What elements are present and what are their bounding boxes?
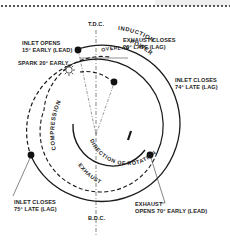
svg-text:COMPRESSION: COMPRESSION — [49, 99, 62, 151]
exhaust-close-arc — [80, 72, 114, 83]
exhaust-closes-dot — [111, 79, 118, 86]
tdc-label: T.D.C. — [88, 21, 104, 28]
power-arc — [68, 59, 163, 153]
inlet-opens-label: INLET OPENS15° EARLY (LEAD) — [22, 40, 72, 53]
svg-text:DIRECTION OF ROTATION: DIRECTION OF ROTATION — [89, 138, 157, 166]
inlet-closes-74-label: INLET CLOSES74° LATE (LAG) — [175, 77, 218, 90]
inlet-closes-75-label: INLET CLOSES75° LATE (LAG) — [14, 199, 57, 212]
valve-timing-diagram: INDUCTION POWER COMPRESSION EXHAUST DIRE… — [0, 0, 230, 243]
inlet-opens-dot — [75, 47, 82, 54]
inlet-closes-75-dot — [28, 152, 35, 159]
exhaust-opens-label: EXHAUSTOPENS 70° EARLY (LEAD) — [135, 201, 207, 214]
rotation-arrowhead — [128, 131, 131, 140]
exhaust-label: EXHAUST — [77, 162, 102, 185]
spark-label: SPARK 20° EARLY — [18, 60, 69, 67]
bdc-label: B.D.C. — [88, 215, 105, 222]
exhaust-arc — [40, 56, 157, 192]
rotation-label: DIRECTION OF ROTATION — [89, 138, 157, 166]
exhaust-closes-label: EXHAUST CLOSES20° LATE (LAG) — [123, 37, 176, 50]
compression-label: COMPRESSION — [49, 99, 62, 151]
svg-text:EXHAUST: EXHAUST — [77, 162, 102, 185]
compression-arc — [27, 66, 68, 156]
